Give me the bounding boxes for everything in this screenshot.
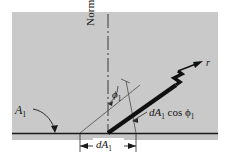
surface-area-label: A1	[15, 104, 26, 119]
ray-label: r	[206, 58, 210, 68]
surface-area-subscript: 1	[22, 110, 26, 119]
angle-subscript: 1	[118, 95, 122, 103]
projected-area-prefix: dA	[149, 106, 161, 118]
differential-area-subscript: 1	[108, 145, 112, 153]
projected-area-angle-subscript: 1	[191, 113, 195, 121]
projected-area-cosine: cos ϕ	[165, 106, 191, 118]
differential-area-label: dA1	[96, 139, 112, 153]
dimension-arrowhead-right	[128, 143, 136, 149]
normal-axis-label: Normal	[85, 0, 96, 26]
differential-area-symbol: dA	[96, 138, 108, 150]
dimension-arrowhead-left	[80, 143, 88, 149]
angle-label: ϕ1	[112, 89, 121, 103]
diagram-canvas	[0, 0, 231, 164]
projected-area-label: dA1 cos ϕ1	[149, 107, 194, 121]
figure-container: Normal A1 ϕ1 dA1 cos ϕ1 dA1 r	[0, 0, 231, 164]
